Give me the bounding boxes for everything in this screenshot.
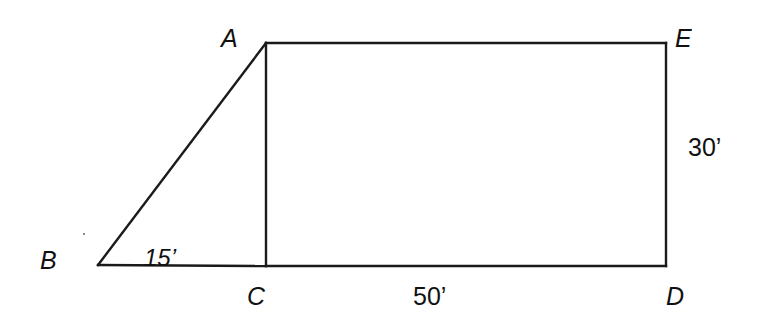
- dimension-bc: 15’: [144, 246, 176, 270]
- point-label-d: D: [666, 284, 684, 309]
- dimension-cd: 50’: [413, 284, 446, 309]
- figure-lines: [0, 0, 762, 328]
- segment-bc: [98, 265, 266, 266]
- segment-ab: [98, 43, 266, 265]
- point-label-b: B: [40, 248, 57, 273]
- dimension-de: 30’: [688, 135, 721, 160]
- geometry-diagram: A E B C D 15’ 50’ 30’: [0, 0, 762, 328]
- point-label-e: E: [675, 26, 692, 51]
- point-label-c: C: [247, 284, 265, 309]
- point-label-a: A: [221, 26, 238, 51]
- stray-dot: [83, 233, 85, 235]
